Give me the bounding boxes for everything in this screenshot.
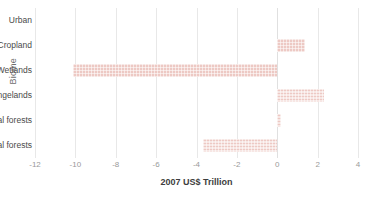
x-tick-label: -12 [29,160,41,169]
bar-row: Wetlands [35,58,358,83]
bar [203,139,278,152]
bar-row: Temperate/Boreal forests [35,108,358,133]
x-tick-label: -2 [233,160,240,169]
bar [277,114,281,127]
category-label: Tropical forests [0,133,35,158]
bar [277,39,304,52]
bar-chart: Biome UrbanCroplandWetlandsGrass/Rangela… [0,0,378,205]
x-tick-label: -4 [193,160,200,169]
category-label: Wetlands [0,58,35,83]
x-tick-label: -10 [70,160,82,169]
x-axis-tick-labels: -12-10-8-6-4-2024 [35,160,358,174]
x-axis-title: 2007 US$ Trillion [35,177,358,187]
category-label: Cropland [0,33,35,58]
gridline-4 [358,8,359,158]
x-tick-label: 0 [275,160,279,169]
bar [73,64,277,77]
bar [277,89,323,102]
x-tick-label: 2 [315,160,319,169]
category-label: Temperate/Boreal forests [0,108,35,133]
category-label: Urban [9,8,35,33]
bar-row: Tropical forests [35,133,358,158]
x-tick-label: -6 [153,160,160,169]
bar-row: Cropland [35,33,358,58]
bar-row: Grass/Rangelands [35,83,358,108]
x-tick-label: -8 [112,160,119,169]
bar-row: Urban [35,8,358,33]
plot-area: UrbanCroplandWetlandsGrass/RangelandsTem… [35,8,358,158]
category-label: Grass/Rangelands [0,83,35,108]
x-tick-label: 4 [356,160,360,169]
